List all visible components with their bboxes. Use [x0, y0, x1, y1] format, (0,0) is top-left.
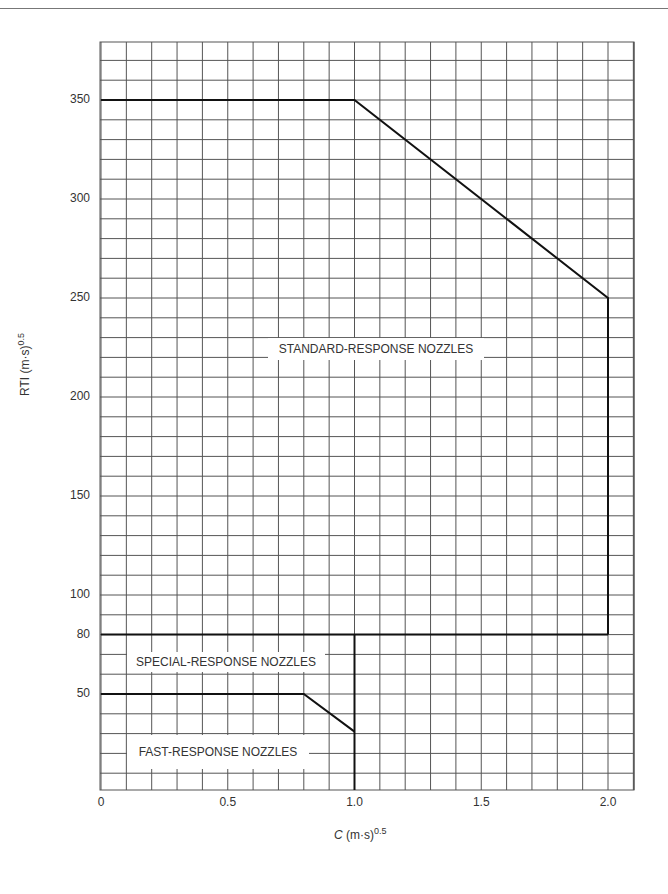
y-tick-label: 80 — [40, 627, 90, 641]
y-tick-label: 200 — [40, 389, 90, 403]
grid-lines — [100, 42, 634, 790]
y-tick-label: 250 — [40, 290, 90, 304]
y-tick-label: 50 — [40, 686, 90, 700]
x-axis-label-symbol: C — [334, 828, 343, 842]
y-tick-label: 300 — [40, 191, 90, 205]
y-tick-label: 350 — [40, 92, 90, 106]
x-tick-label: 0.5 — [208, 795, 248, 809]
label-standard-response: STANDARD-RESPONSE NOZZLES — [268, 338, 484, 360]
y-tick-label: 100 — [40, 587, 90, 601]
chart-plot-area — [0, 0, 668, 894]
label-fast-response: FAST-RESPONSE NOZZLES — [127, 735, 309, 769]
y-tick-label: 150 — [40, 488, 90, 502]
x-axis-label-unit: (m·s) — [343, 828, 374, 842]
x-axis-label: C (m·s)0.5 — [334, 826, 387, 842]
x-axis-label-exponent: 0.5 — [374, 826, 387, 836]
y-axis-label-exponent: 0.5 — [16, 333, 26, 346]
x-tick-label: 1.5 — [461, 795, 501, 809]
x-tick-label: 1.0 — [335, 795, 375, 809]
y-axis-label-text: RTI (m·s) — [18, 346, 32, 396]
x-tick-label: 0 — [81, 795, 121, 809]
y-axis-label: RTI (m·s)0.5 — [16, 333, 32, 396]
x-tick-label: 2.0 — [588, 795, 628, 809]
label-special-response: SPECIAL-RESPONSE NOZZLES — [127, 652, 325, 672]
